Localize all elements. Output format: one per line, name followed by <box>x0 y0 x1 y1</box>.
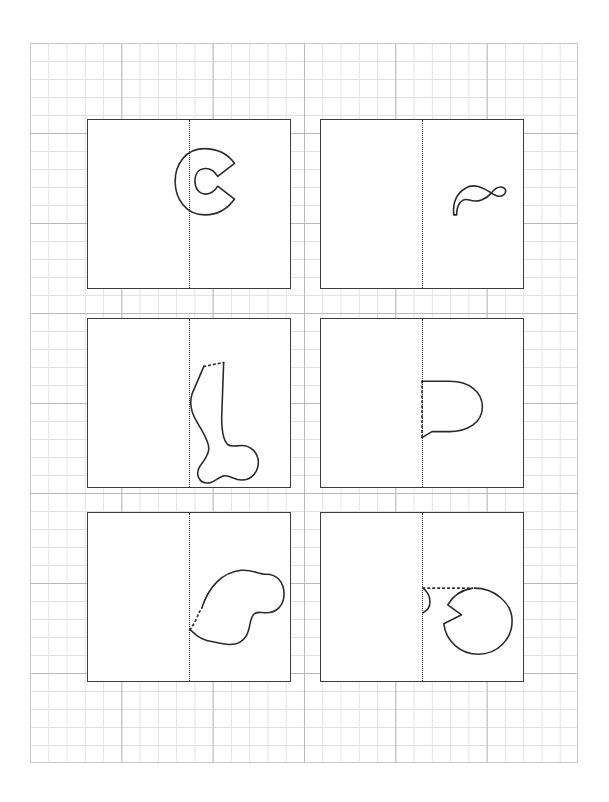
symmetry-panel-1 <box>87 119 291 289</box>
shape-layer-5 <box>88 513 290 681</box>
mitten-blob-shape-outline <box>190 570 284 644</box>
d-letter-shape-outline <box>422 381 482 437</box>
shape-layer-6 <box>321 513 523 681</box>
shape-layer-3 <box>88 319 290 487</box>
leg-boot-shape <box>88 319 290 487</box>
worksheet-page <box>0 0 609 802</box>
leg-boot-shape-outline <box>191 362 259 483</box>
leg-boot-shape-dotted-edge <box>204 362 224 366</box>
shape-layer-2 <box>321 120 523 288</box>
c-letter-shape <box>88 120 290 288</box>
pacman-circle-shape <box>321 513 523 681</box>
symmetry-panel-5 <box>87 512 291 682</box>
pacman-circle-shape-outline-2 <box>423 588 430 613</box>
mitten-blob-shape <box>88 513 290 681</box>
wavy-ribbon-shape-outline <box>454 186 506 215</box>
symmetry-panel-6 <box>320 512 524 682</box>
symmetry-panel-2 <box>320 119 524 289</box>
shape-layer-4 <box>321 319 523 487</box>
symmetry-panel-3 <box>87 318 291 488</box>
c-letter-shape-outline <box>175 149 234 215</box>
symmetry-panel-4 <box>320 318 524 488</box>
wavy-ribbon-shape <box>321 120 523 288</box>
shape-layer-1 <box>88 120 290 288</box>
mitten-blob-shape-dotted-edge <box>190 608 202 630</box>
pacman-circle-shape-outline <box>444 588 512 654</box>
d-letter-shape <box>321 319 523 487</box>
